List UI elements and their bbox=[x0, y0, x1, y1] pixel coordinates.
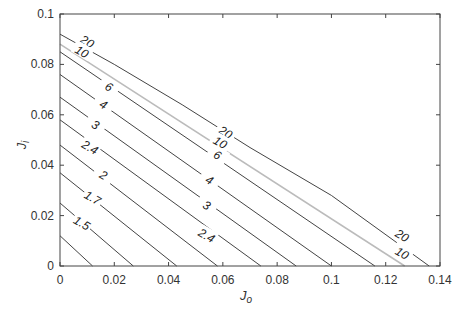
contour-line-10 bbox=[60, 44, 405, 266]
contour-line-2 bbox=[60, 145, 217, 266]
y-tick-label: 0.04 bbox=[31, 158, 55, 172]
y-axis-label: Ji bbox=[14, 140, 31, 151]
x-tick-label: 0.08 bbox=[265, 273, 289, 287]
y-tick-label: 0 bbox=[47, 259, 54, 273]
contour-line-1.5 bbox=[60, 236, 93, 266]
y-tick-label: 0.06 bbox=[31, 108, 55, 122]
x-tick-label: 0 bbox=[57, 273, 64, 287]
contour-line-1.5 bbox=[60, 203, 133, 266]
contour-label: 1.5 bbox=[71, 213, 93, 234]
x-tick-label: 0.04 bbox=[157, 273, 181, 287]
contour-chart: 1.51.722.4346102020106432.42010 00.020.0… bbox=[0, 0, 461, 314]
contour-label: 2.4 bbox=[195, 225, 218, 246]
x-tick-label: 0.02 bbox=[103, 273, 127, 287]
x-axis-label: Jo bbox=[239, 288, 253, 305]
y-tick-label: 0.08 bbox=[31, 57, 55, 71]
y-tick-label: 0.02 bbox=[31, 209, 55, 223]
plot-frame bbox=[60, 14, 440, 266]
contour-label: 2.4 bbox=[78, 137, 101, 158]
contour-lines bbox=[60, 34, 429, 266]
contour-line-20 bbox=[60, 34, 429, 266]
x-tick-label: 0.12 bbox=[374, 273, 398, 287]
x-tick-label: 0.1 bbox=[323, 273, 340, 287]
x-tick-label: 0.14 bbox=[428, 273, 452, 287]
y-tick-label: 0.1 bbox=[37, 7, 54, 21]
x-tick-label: 0.06 bbox=[211, 273, 235, 287]
